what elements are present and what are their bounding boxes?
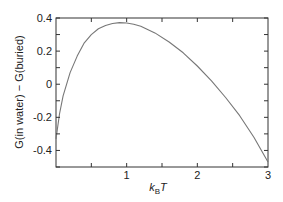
y-tick-label: 0.4: [37, 12, 52, 24]
y-axis: 0.40.20-0.2-0.4: [33, 12, 268, 167]
y-axis-label: G(in water) − G(buried): [13, 35, 25, 148]
plot-frame: [56, 18, 268, 167]
x-tick-label: 2: [194, 169, 200, 181]
plot-area: [56, 18, 268, 167]
x-tick-label: 3: [265, 169, 271, 181]
y-tick-label: 0: [46, 78, 52, 90]
chart: 123 0.40.20-0.2-0.4 kBT G(in water) − G(…: [0, 0, 283, 202]
series-line: [56, 23, 268, 162]
y-tick-label: 0.2: [37, 45, 52, 57]
x-axis-label: kBT: [149, 181, 168, 196]
y-tick-label: -0.4: [33, 144, 52, 156]
x-axis: 123: [91, 18, 271, 181]
y-tick-label: -0.2: [33, 111, 52, 123]
curve: [56, 23, 268, 162]
x-tick-label: 1: [124, 169, 130, 181]
